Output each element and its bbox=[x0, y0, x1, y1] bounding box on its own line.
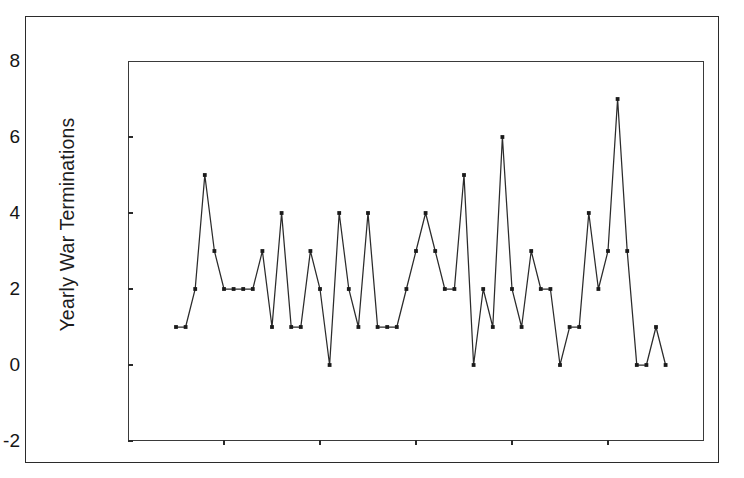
y-tick-label: -2 bbox=[0, 431, 20, 450]
data-point-marker bbox=[558, 363, 562, 367]
y-tick-label: 8 bbox=[0, 51, 20, 70]
data-point-marker bbox=[529, 249, 533, 253]
data-point-marker bbox=[270, 325, 274, 329]
data-point-marker bbox=[472, 363, 476, 367]
data-point-marker bbox=[433, 249, 437, 253]
plot-area: -202468 1940195019601970198019902000 bbox=[128, 61, 704, 441]
data-point-marker bbox=[251, 287, 255, 291]
data-point-marker bbox=[520, 325, 524, 329]
y-tick-label: 4 bbox=[0, 203, 20, 222]
data-point-marker bbox=[462, 173, 466, 177]
data-point-marker bbox=[491, 325, 495, 329]
data-point-marker bbox=[318, 287, 322, 291]
data-point-marker bbox=[376, 325, 380, 329]
data-point-marker bbox=[549, 287, 553, 291]
data-point-marker bbox=[366, 211, 370, 215]
data-point-marker bbox=[222, 287, 226, 291]
data-point-marker bbox=[309, 249, 313, 253]
data-point-marker bbox=[654, 325, 658, 329]
data-point-marker bbox=[385, 325, 389, 329]
data-point-marker bbox=[299, 325, 303, 329]
figure-outer-border: Yearly War Terminations -202468 19401950… bbox=[25, 16, 719, 463]
data-point-marker bbox=[501, 135, 505, 139]
data-point-marker bbox=[280, 211, 284, 215]
data-point-marker bbox=[347, 287, 351, 291]
data-point-marker bbox=[174, 325, 178, 329]
series-polyline bbox=[176, 99, 666, 365]
y-tick-label: 6 bbox=[0, 127, 20, 146]
data-point-marker bbox=[616, 97, 620, 101]
data-point-marker bbox=[587, 211, 591, 215]
data-point-marker bbox=[606, 249, 610, 253]
data-point-marker bbox=[443, 287, 447, 291]
data-point-marker bbox=[645, 363, 649, 367]
data-point-marker bbox=[414, 249, 418, 253]
data-point-marker bbox=[395, 325, 399, 329]
data-point-marker bbox=[405, 287, 409, 291]
y-tick-label: 2 bbox=[0, 279, 20, 298]
data-point-marker bbox=[481, 287, 485, 291]
data-point-marker bbox=[625, 249, 629, 253]
data-point-marker bbox=[577, 325, 581, 329]
data-point-marker bbox=[203, 173, 207, 177]
data-point-marker bbox=[357, 325, 361, 329]
data-point-marker bbox=[328, 363, 332, 367]
data-point-marker bbox=[453, 287, 457, 291]
data-point-marker bbox=[597, 287, 601, 291]
data-point-marker bbox=[184, 325, 188, 329]
line-series-yearly-war-terminations bbox=[128, 61, 704, 441]
data-point-marker bbox=[193, 287, 197, 291]
data-point-marker bbox=[261, 249, 265, 253]
data-point-marker bbox=[337, 211, 341, 215]
y-tick-label: 0 bbox=[0, 355, 20, 374]
data-point-marker bbox=[510, 287, 514, 291]
data-point-marker bbox=[539, 287, 543, 291]
data-point-marker bbox=[568, 325, 572, 329]
figure-root: Yearly War Terminations -202468 19401950… bbox=[0, 0, 744, 478]
data-point-marker bbox=[213, 249, 217, 253]
data-point-marker bbox=[635, 363, 639, 367]
data-point-marker bbox=[424, 211, 428, 215]
data-point-marker bbox=[664, 363, 668, 367]
data-point-marker bbox=[232, 287, 236, 291]
data-point-marker bbox=[289, 325, 293, 329]
y-axis-title: Yearly War Terminations bbox=[56, 100, 79, 350]
data-point-marker bbox=[241, 287, 245, 291]
